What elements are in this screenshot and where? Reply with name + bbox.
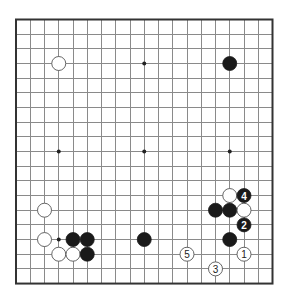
black-stone-move-2[interactable]: 2 (237, 218, 251, 232)
white-stone[interactable] (223, 189, 237, 203)
black-stone-icon (223, 203, 237, 217)
black-stone-icon (209, 203, 223, 217)
white-stone-icon (52, 57, 66, 71)
move-number-label: 5 (184, 249, 190, 260)
white-stone[interactable] (52, 57, 66, 71)
white-stone-icon (38, 203, 52, 217)
black-stone[interactable] (66, 233, 80, 247)
go-board[interactable]: 42513 (0, 0, 290, 300)
white-stone-icon (237, 203, 251, 217)
star-point (57, 150, 61, 154)
white-stone[interactable] (237, 203, 251, 217)
white-stone-icon (66, 247, 80, 261)
black-stone[interactable] (223, 57, 237, 71)
black-stone[interactable] (80, 247, 94, 261)
black-stone-icon (137, 233, 151, 247)
white-stone[interactable] (38, 203, 52, 217)
black-stone-icon (80, 233, 94, 247)
black-stone[interactable] (80, 233, 94, 247)
star-point (228, 150, 232, 154)
white-stone[interactable] (66, 247, 80, 261)
move-number-label: 4 (241, 191, 247, 202)
black-stone-icon (80, 247, 94, 261)
move-number-label: 3 (213, 264, 219, 275)
black-stone-icon (223, 57, 237, 71)
black-stone-icon (223, 233, 237, 247)
star-point (142, 62, 146, 66)
black-stone-move-4[interactable]: 4 (237, 189, 251, 203)
white-stone-icon (223, 189, 237, 203)
white-stone-move-1[interactable]: 1 (237, 247, 251, 261)
white-stone[interactable] (52, 247, 66, 261)
black-stone[interactable] (223, 233, 237, 247)
black-stone[interactable] (209, 203, 223, 217)
move-number-label: 2 (241, 220, 247, 231)
white-stone[interactable] (38, 233, 52, 247)
white-stone-icon (52, 247, 66, 261)
white-stone-move-3[interactable]: 3 (209, 262, 223, 276)
go-board-canvas[interactable]: 42513 (0, 0, 290, 300)
move-number-label: 1 (241, 249, 247, 260)
black-stone[interactable] (137, 233, 151, 247)
white-stone-move-5[interactable]: 5 (180, 247, 194, 261)
black-stone[interactable] (223, 203, 237, 217)
black-stone-icon (66, 233, 80, 247)
star-point (57, 238, 61, 242)
white-stone-icon (38, 233, 52, 247)
star-point (142, 150, 146, 154)
